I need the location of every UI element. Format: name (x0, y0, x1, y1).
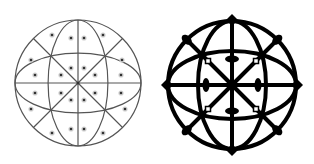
leaf-node-icon (203, 78, 210, 92)
leaf-node-icon (225, 108, 239, 115)
diamond-node-icon (291, 79, 303, 91)
right-bold-diagram (0, 0, 314, 164)
diamond-node-icon (226, 14, 238, 26)
diamond-node-icon (161, 79, 173, 91)
leaf-node-icon (225, 56, 239, 63)
hollow-square-node-icon (206, 107, 211, 112)
diagram-stage (0, 0, 314, 164)
hollow-square-node-icon (254, 107, 259, 112)
hollow-square-node-icon (254, 59, 259, 64)
hollow-square-node-icon (206, 59, 211, 64)
diamond-node-icon (226, 144, 238, 156)
leaf-node-icon (255, 78, 262, 92)
